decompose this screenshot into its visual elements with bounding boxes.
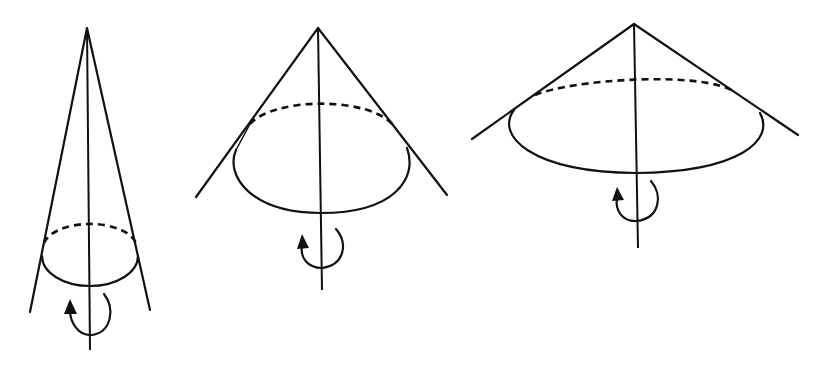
cone-3-rotation-arrowhead-icon xyxy=(612,187,624,201)
cone-1-right-side xyxy=(87,28,150,310)
cone-2-circle-back-dashed xyxy=(250,104,392,124)
cones-diagram xyxy=(0,0,821,367)
cone-2-rotation-arrowhead-icon xyxy=(297,234,309,249)
cone-3-axis xyxy=(634,24,638,248)
cone-2-axis xyxy=(318,28,322,290)
cone-2-left-side xyxy=(196,28,318,197)
cone-2-right-side xyxy=(318,28,447,195)
cone-1-axis xyxy=(87,28,90,350)
cone-1-rotation-arrowhead-icon xyxy=(64,299,77,314)
cone-1-circle-back-dashed xyxy=(44,224,136,243)
cone-2 xyxy=(196,28,447,290)
cone-1 xyxy=(30,28,150,350)
cone-3 xyxy=(472,24,798,248)
cone-1-left-side xyxy=(30,28,87,312)
